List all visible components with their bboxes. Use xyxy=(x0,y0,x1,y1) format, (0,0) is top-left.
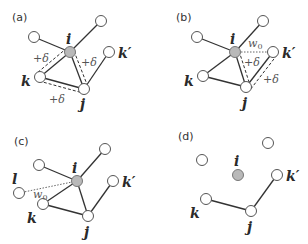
edge-u2-i xyxy=(77,149,105,181)
node-label-i: i xyxy=(230,31,235,47)
edge-label-delta-kj: +δ xyxy=(49,93,65,106)
node-u1 xyxy=(34,160,45,171)
edge-label-delta-ij: +δ xyxy=(81,56,97,69)
node-j xyxy=(241,82,252,93)
edge-i-k xyxy=(43,181,77,204)
edge-k-j xyxy=(203,76,246,87)
edge-label-w0: w0 xyxy=(248,37,263,51)
node-j xyxy=(79,84,90,95)
edge-kp-j xyxy=(251,175,277,211)
node-label-kp: k′ xyxy=(118,45,132,61)
edge-k-j xyxy=(43,204,88,216)
edge-k-j xyxy=(206,199,251,211)
node-label-j: j xyxy=(239,95,247,111)
node-label-j: j xyxy=(81,224,89,240)
node-label-kp: k′ xyxy=(286,168,300,184)
edge-kp-j xyxy=(88,181,113,216)
node-label-kp: k′ xyxy=(282,45,296,61)
node-label-j: j xyxy=(244,219,252,235)
node-label-i: i xyxy=(66,31,71,47)
node-u2 xyxy=(263,138,274,149)
node-label-k: k xyxy=(21,73,31,89)
panel-a: (a) i k′ k j +δ +δ +δ xyxy=(12,11,132,112)
node-j xyxy=(83,211,94,222)
node-l xyxy=(14,188,25,199)
node-i xyxy=(230,47,241,58)
edge-label-delta-ij: +δ xyxy=(244,56,260,69)
node-i xyxy=(233,170,244,181)
node-u1 xyxy=(197,155,208,166)
edge-label-delta-kpj: +δ xyxy=(263,73,279,86)
node-u1 xyxy=(192,32,203,43)
node-label-i: i xyxy=(72,160,77,176)
edge-label-w0: w0 xyxy=(33,188,48,202)
node-kp xyxy=(104,47,115,58)
panel-label-c: (c) xyxy=(14,135,29,148)
edge-u2-i xyxy=(70,21,101,52)
panel-c: (c) i k′ k j l w0 xyxy=(12,135,136,240)
node-u2 xyxy=(258,16,269,27)
node-u2 xyxy=(96,16,107,27)
node-label-k: k xyxy=(190,205,200,221)
panel-label-b: (b) xyxy=(176,11,192,24)
panel-label-a: (a) xyxy=(12,11,27,24)
node-k xyxy=(35,72,46,83)
panel-label-d: (d) xyxy=(178,130,194,143)
node-i xyxy=(72,176,83,187)
node-kp xyxy=(272,170,283,181)
node-j xyxy=(246,206,257,217)
panel-b: (b) i k′ k j w0 +δ +δ xyxy=(176,11,296,111)
edge-i-k xyxy=(203,52,235,76)
node-label-kp: k′ xyxy=(122,174,136,190)
node-kp xyxy=(268,47,279,58)
network-diagram: (a) i k′ k j +δ +δ +δ (b) xyxy=(0,0,308,244)
node-k xyxy=(201,194,212,205)
node-k xyxy=(198,71,209,82)
node-label-l: l xyxy=(12,171,17,187)
panel-d: (d) i k′ k j xyxy=(178,130,300,235)
node-kp xyxy=(108,176,119,187)
node-u1 xyxy=(29,32,40,43)
node-label-k: k xyxy=(27,210,37,226)
node-i xyxy=(65,47,76,58)
node-label-j: j xyxy=(77,96,85,112)
edge-label-delta-ik: +δ xyxy=(33,52,49,65)
node-label-i: i xyxy=(234,153,239,169)
node-u2 xyxy=(100,144,111,155)
node-label-k: k xyxy=(184,73,194,89)
